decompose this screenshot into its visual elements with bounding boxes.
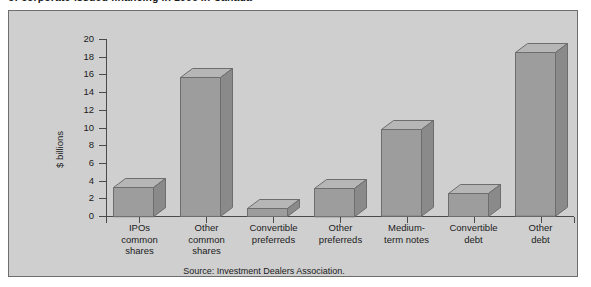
x-tick [106,217,107,223]
bar-3d-shape [381,120,435,218]
x-axis-category-line: term notes [373,234,440,246]
x-axis-category-label: Convertiblepreferreds [240,222,307,245]
x-axis-category-line: Other [507,222,574,234]
y-tick-label: 2 [64,193,94,202]
y-tick [99,181,106,182]
x-axis-category-line: shares [106,245,173,257]
y-tick-label: 12 [64,105,94,114]
x-axis-category-line: common [106,234,173,246]
y-tick [99,39,106,40]
x-axis-category-line: preferreds [307,234,374,246]
x-axis-category-line: Convertible [440,222,507,234]
x-axis-category-line: Other [307,222,374,234]
figure-root: of corporate-issued financing in 1996 in… [0,0,591,287]
bar-3d-shape [180,68,234,218]
x-axis-category-label: Othercommonshares [173,222,240,257]
y-tick-label: 6 [64,158,94,167]
bar [381,120,421,216]
x-axis-category-line: debt [507,234,574,246]
x-axis-category-label: IPOscommonshares [106,222,173,257]
y-tick-label: 18 [64,52,94,61]
y-tick-label: 14 [64,87,94,96]
chart-panel: $ billions 02468101214161820 IPOscommons… [8,10,578,277]
x-axis-category-label: Otherpreferreds [307,222,374,245]
y-tick [99,163,106,164]
x-axis-category-line: debt [440,234,507,246]
y-axis-line [106,39,107,218]
y-tick-label: 0 [64,211,94,220]
y-tick [99,198,106,199]
x-axis-category-label: Otherdebt [507,222,574,245]
bar-3d-shape [247,199,301,218]
y-tick-label: 16 [64,69,94,78]
y-tick [99,216,106,217]
x-axis-category-line: Medium- [373,222,440,234]
y-tick [99,57,106,58]
bar [448,184,488,216]
bar-3d-shape [448,184,502,218]
x-axis-category-line: Other [173,222,240,234]
y-tick-label: 4 [64,176,94,185]
bar-3d-shape [113,178,167,218]
y-tick [99,74,106,75]
x-axis-category-label: Convertibledebt [440,222,507,245]
source-note: Source: Investment Dealers Association. [10,266,580,276]
y-tick [99,110,106,111]
y-tick-label: 10 [64,123,94,132]
bar [247,199,287,216]
x-axis-category-line: preferreds [240,234,307,246]
bar-3d-shape [314,179,368,218]
y-tick [99,92,106,93]
bar [180,68,220,216]
y-tick [99,128,106,129]
y-tick [99,145,106,146]
x-axis-category-line: IPOs [106,222,173,234]
bar-3d-shape [515,43,569,218]
source-note-text: Source: Investment Dealers Association. [183,266,345,276]
y-tick-label: 8 [64,140,94,149]
x-axis-category-line: common [173,234,240,246]
chart-panel-inner: $ billions 02468101214161820 IPOscommons… [10,12,576,275]
figure-caption: of corporate-issued financing in 1996 in… [8,0,252,3]
y-tick-label: 20 [64,34,94,43]
bar [314,179,354,216]
x-axis-category-line: Convertible [240,222,307,234]
bar [113,178,153,216]
bar [515,43,555,216]
x-axis-category-line: shares [173,245,240,257]
x-tick [574,217,575,223]
x-axis-category-label: Medium-term notes [373,222,440,245]
